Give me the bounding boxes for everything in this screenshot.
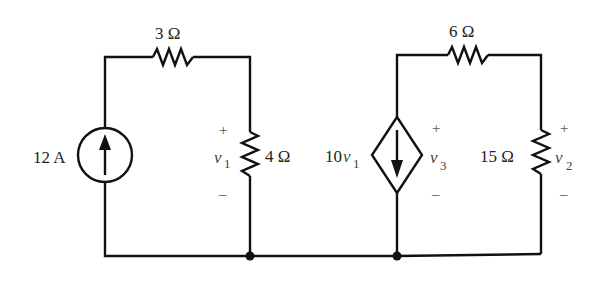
dep-var: v xyxy=(343,147,351,166)
current-source-12a xyxy=(78,128,132,182)
resistor-6-ohm xyxy=(448,47,488,63)
v2-var: v xyxy=(555,148,563,167)
v3-plus: + xyxy=(432,120,440,136)
v2-minus: – xyxy=(559,186,568,202)
label-r15: 15 Ω xyxy=(480,147,514,166)
v1-var: v xyxy=(214,148,222,167)
v1-plus: + xyxy=(219,122,227,138)
v3-sub: 3 xyxy=(440,158,447,173)
v2-plus: + xyxy=(560,120,568,136)
junction-node-left xyxy=(246,252,255,261)
dep-coef: 10 xyxy=(325,147,342,166)
label-r6: 6 Ω xyxy=(449,22,474,41)
v2-sub: 2 xyxy=(566,158,573,173)
resistor-3-ohm xyxy=(153,49,193,65)
label-r3: 3 Ω xyxy=(155,24,180,43)
junction-node-right xyxy=(393,252,402,261)
v1-sub: 1 xyxy=(224,156,231,171)
v1-minus: – xyxy=(218,186,227,202)
v3-minus: – xyxy=(431,186,440,202)
dep-sub: 1 xyxy=(353,156,360,171)
resistor-4-ohm xyxy=(242,132,258,176)
label-12a: 12 A xyxy=(33,148,66,167)
label-r4: 4 Ω xyxy=(265,147,290,166)
dependent-current-source xyxy=(372,117,422,193)
resistor-15-ohm xyxy=(533,130,549,174)
v3-var: v xyxy=(430,148,438,167)
circuit-diagram: 3 Ω 6 Ω 12 A 4 Ω 15 Ω + v 1 – 10 v 1 + v… xyxy=(0,0,606,284)
